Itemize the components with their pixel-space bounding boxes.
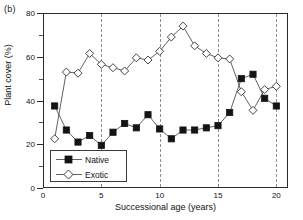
legend-item-exotic: Exotic — [51, 167, 126, 182]
marker-native-year-17 — [238, 76, 244, 82]
marker-native-year-14 — [203, 125, 209, 131]
marker-exotic-year-14 — [202, 49, 210, 57]
marker-native-year-18 — [250, 71, 256, 77]
marker-native-year-3 — [75, 139, 81, 145]
marker-exotic-year-2 — [62, 68, 70, 76]
marker-exotic-year-3 — [74, 69, 82, 77]
marker-exotic-year-16 — [226, 55, 234, 63]
legend-item-native: Native — [51, 152, 126, 167]
marker-native-year-10 — [157, 126, 163, 132]
marker-native-year-12 — [180, 127, 186, 133]
series-exotic — [51, 22, 281, 143]
marker-native-year-7 — [122, 120, 128, 126]
marker-native-year-16 — [227, 109, 233, 115]
marker-exotic-year-17 — [237, 88, 245, 96]
series-native — [52, 71, 280, 148]
marker-native-year-1 — [52, 103, 58, 109]
marker-native-year-11 — [168, 136, 174, 142]
marker-native-year-8 — [133, 125, 139, 131]
marker-exotic-year-13 — [191, 42, 199, 50]
marker-native-year-20 — [273, 103, 279, 109]
legend: Native Exotic — [50, 150, 127, 182]
legend-label-exotic: Exotic — [85, 170, 108, 180]
marker-exotic-year-18 — [249, 106, 257, 114]
marker-native-year-2 — [63, 127, 69, 133]
marker-native-year-5 — [98, 142, 104, 148]
legend-label-native: Native — [85, 155, 109, 165]
filled-square-icon — [54, 152, 84, 167]
marker-exotic-year-1 — [51, 135, 59, 143]
marker-native-year-15 — [215, 123, 221, 129]
marker-native-year-6 — [110, 129, 116, 135]
line-exotic — [55, 26, 277, 139]
marker-native-year-13 — [192, 127, 198, 133]
marker-native-year-19 — [262, 95, 268, 101]
marker-exotic-year-15 — [214, 54, 222, 62]
marker-native-year-4 — [87, 132, 93, 138]
marker-exotic-year-6 — [109, 64, 117, 72]
data-series-layer — [0, 0, 303, 220]
marker-exotic-year-20 — [272, 82, 280, 90]
marker-exotic-year-9 — [144, 56, 152, 64]
chart-figure: (b) Plant cover (%) Successional age (ye… — [0, 0, 303, 220]
open-diamond-icon — [54, 167, 84, 182]
marker-native-year-9 — [145, 112, 151, 118]
